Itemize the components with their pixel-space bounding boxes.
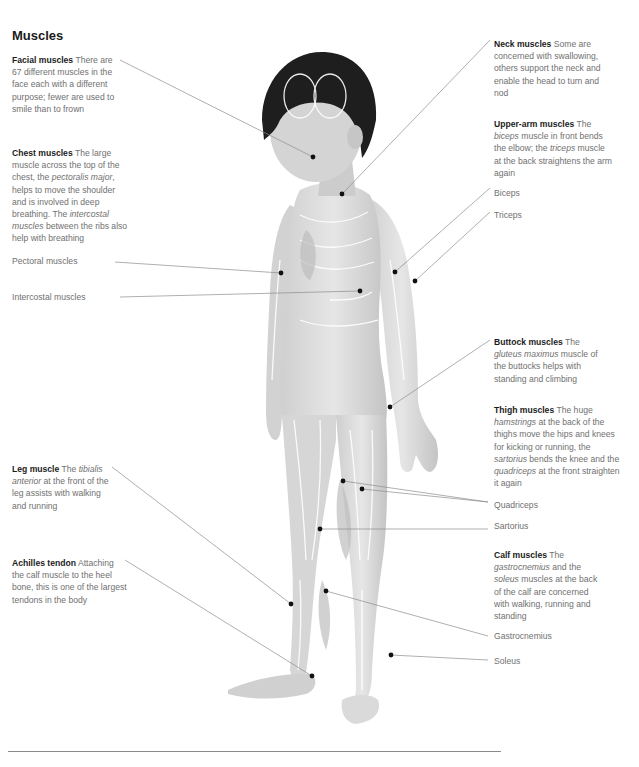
bottom-divider xyxy=(8,751,501,752)
child-muscle-figure xyxy=(0,0,639,767)
body-silhouette xyxy=(228,52,438,724)
